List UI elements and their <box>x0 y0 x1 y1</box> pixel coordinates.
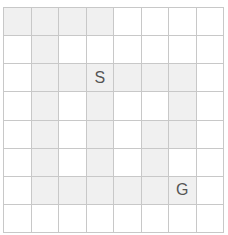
empty-cell <box>114 149 142 177</box>
empty-cell <box>197 205 225 233</box>
path-cell <box>32 92 60 120</box>
empty-cell <box>142 8 170 36</box>
path-cell <box>114 64 142 92</box>
path-cell <box>114 177 142 205</box>
empty-cell <box>59 149 87 177</box>
empty-cell <box>87 205 115 233</box>
path-cell <box>32 177 60 205</box>
empty-cell <box>4 92 32 120</box>
empty-cell <box>142 36 170 64</box>
empty-cell <box>114 8 142 36</box>
empty-cell <box>142 205 170 233</box>
start-cell: S <box>87 64 115 92</box>
path-cell <box>142 64 170 92</box>
path-cell <box>87 92 115 120</box>
empty-cell <box>4 121 32 149</box>
empty-cell <box>197 149 225 177</box>
goal-cell: G <box>169 177 197 205</box>
empty-cell <box>197 36 225 64</box>
path-cell <box>142 149 170 177</box>
empty-cell <box>169 36 197 64</box>
path-cell <box>32 121 60 149</box>
empty-cell <box>87 36 115 64</box>
empty-cell <box>169 205 197 233</box>
empty-cell <box>197 8 225 36</box>
path-cell <box>87 149 115 177</box>
empty-cell <box>114 92 142 120</box>
path-cell <box>32 36 60 64</box>
empty-cell <box>4 36 32 64</box>
empty-cell <box>197 121 225 149</box>
path-cell <box>169 64 197 92</box>
empty-cell <box>169 8 197 36</box>
empty-cell <box>32 205 60 233</box>
empty-cell <box>59 121 87 149</box>
path-cell <box>87 177 115 205</box>
path-cell <box>87 8 115 36</box>
empty-cell <box>59 205 87 233</box>
path-cell <box>32 64 60 92</box>
path-cell <box>32 149 60 177</box>
grid-maze: SG <box>3 7 224 233</box>
path-cell <box>142 121 170 149</box>
empty-cell <box>114 121 142 149</box>
empty-cell <box>4 149 32 177</box>
path-cell <box>169 92 197 120</box>
path-cell <box>169 121 197 149</box>
empty-cell <box>197 92 225 120</box>
path-cell <box>59 8 87 36</box>
path-cell <box>142 177 170 205</box>
path-cell <box>87 121 115 149</box>
empty-cell <box>59 36 87 64</box>
empty-cell <box>4 177 32 205</box>
path-cell <box>32 8 60 36</box>
empty-cell <box>114 36 142 64</box>
empty-cell <box>197 64 225 92</box>
path-cell <box>59 64 87 92</box>
path-cell <box>4 8 32 36</box>
empty-cell <box>197 177 225 205</box>
empty-cell <box>4 64 32 92</box>
empty-cell <box>169 149 197 177</box>
empty-cell <box>114 205 142 233</box>
empty-cell <box>142 92 170 120</box>
path-cell <box>59 177 87 205</box>
empty-cell <box>59 92 87 120</box>
empty-cell <box>4 205 32 233</box>
